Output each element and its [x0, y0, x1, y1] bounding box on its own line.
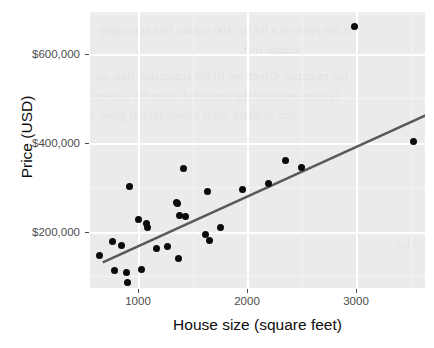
- scatter-point: [182, 213, 189, 220]
- tick-mark-y-400000: [85, 143, 89, 144]
- x-axis-title: House size (square feet): [90, 316, 425, 334]
- tick-mark-x-3000: [356, 289, 357, 293]
- scatter-point: [138, 266, 145, 273]
- scatter-point: [135, 216, 142, 223]
- scatter-point: [153, 245, 160, 252]
- tick-label-x-3000: 3000: [343, 295, 369, 307]
- regression-line: [90, 12, 425, 288]
- scatter-point: [123, 269, 130, 276]
- tick-mark-y-600000: [85, 54, 89, 55]
- scatter-point: [111, 267, 118, 274]
- tick-label-x-2000: 2000: [234, 295, 260, 307]
- scatter-point: [239, 186, 246, 193]
- tick-mark-x-2000: [247, 289, 248, 293]
- tick-label-x-1000: 1000: [125, 295, 151, 307]
- scatter-point: [109, 238, 116, 245]
- scatter-point: [180, 165, 187, 172]
- regression-line-segment: [103, 108, 425, 262]
- tick-mark-x-1000: [138, 289, 139, 293]
- scatter-point: [96, 252, 103, 259]
- y-axis-title: Price (USD): [18, 57, 36, 217]
- plot-panel: is the price of a lot, so 100 square fee…: [90, 12, 425, 288]
- scatter-point: [126, 183, 133, 190]
- scatter-point: [124, 279, 131, 286]
- tick-label-y-200000: $200,000: [10, 226, 80, 238]
- scatter-point: [118, 242, 125, 249]
- scatter-point: [351, 23, 358, 30]
- scatter-point: [144, 224, 151, 231]
- scatter-point: [217, 224, 224, 231]
- scatter-plot-figure: is the price of a lot, so 100 square fee…: [0, 0, 434, 348]
- tick-mark-y-200000: [85, 232, 89, 233]
- scatter-point: [206, 237, 213, 244]
